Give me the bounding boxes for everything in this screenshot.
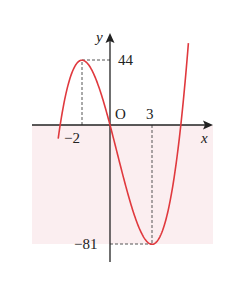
tick-label-3: 3 [146,106,154,122]
x-axis-label: x [200,130,208,146]
cubic-function-graph: y x O 3 −2 44 −81 [0,0,227,281]
origin-label: O [115,106,126,122]
shaded-region [32,125,213,244]
tick-label-neg81: −81 [74,236,97,252]
tick-label-44: 44 [118,52,134,68]
tick-label-neg2: −2 [64,130,80,146]
y-axis-label: y [94,29,103,45]
